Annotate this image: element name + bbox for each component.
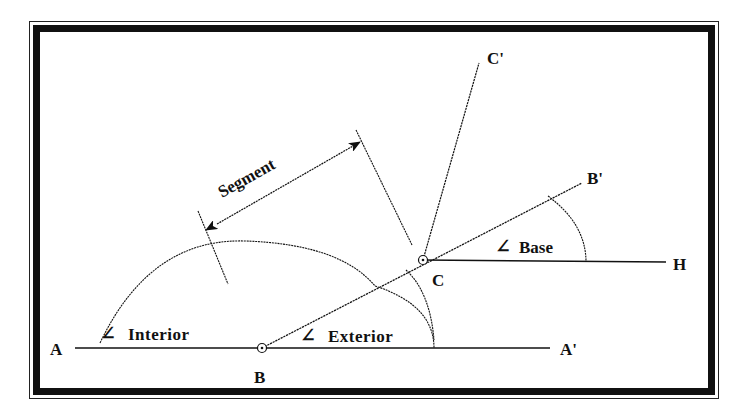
label-exterior-group: ∠ Exterior: [300, 325, 393, 346]
geometry-drawing: A A' B C B' C' H Segment ∠ Interior ∠ Ex…: [0, 0, 735, 418]
line-c-h: [423, 260, 666, 262]
label-interior: Interior: [128, 325, 190, 344]
point-b-marker: [258, 344, 267, 353]
label-exterior: Exterior: [328, 327, 393, 346]
line-b-b-prime: [262, 183, 582, 348]
segment-tick-right: [356, 130, 412, 245]
segment-tick-left: [198, 211, 228, 284]
label-a: A: [50, 340, 63, 359]
diagram-canvas: A A' B C B' C' H Segment ∠ Interior ∠ Ex…: [0, 0, 735, 418]
label-c-prime: C': [487, 49, 504, 68]
line-c-c-prime: [423, 63, 479, 260]
label-b: B: [254, 368, 265, 387]
label-h: H: [673, 255, 686, 274]
point-c-marker: [419, 256, 428, 265]
label-c: C: [432, 271, 444, 290]
label-base: Base: [519, 238, 553, 257]
base-angle-arc: [548, 196, 586, 262]
angle-icon: ∠: [100, 323, 116, 344]
label-interior-group: ∠ Interior: [100, 323, 190, 344]
arc-below-c: [406, 270, 434, 340]
label-b-prime: B': [587, 169, 603, 188]
label-a-prime: A': [560, 340, 577, 359]
angle-icon: ∠: [495, 236, 511, 257]
angle-icon: ∠: [300, 325, 316, 346]
label-base-group: ∠ Base: [495, 236, 553, 257]
